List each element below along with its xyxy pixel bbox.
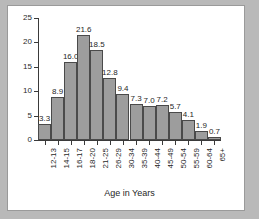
bar-value-label: 16.0 xyxy=(63,52,79,61)
y-tick-label: 0 xyxy=(28,135,32,144)
bar-group: 7.2 xyxy=(156,18,169,140)
bar-group: 9.4 xyxy=(116,18,129,140)
bar-value-label: 7.3 xyxy=(130,94,141,103)
x-tick-mark xyxy=(214,141,215,145)
bars-layer: 3.312-138.914-1516.016-1721.618-2018.521… xyxy=(38,18,221,140)
bar-value-label: 1.9 xyxy=(196,121,207,130)
x-tick-mark xyxy=(45,141,46,145)
x-category-label: 16-17 xyxy=(75,148,84,168)
bar xyxy=(208,137,221,140)
bar-value-label: 3.3 xyxy=(39,114,50,123)
bar-group: 4.1 xyxy=(182,18,195,140)
bar xyxy=(77,35,90,140)
chart-panel: 0510152025 3.312-138.914-1516.016-1721.6… xyxy=(7,5,245,211)
bar-value-label: 12.8 xyxy=(102,68,118,77)
bar-group: 5.7 xyxy=(169,18,182,140)
bar-value-label: 7.2 xyxy=(157,95,168,104)
x-category-label: 40-44 xyxy=(153,148,162,168)
x-tick-mark xyxy=(71,141,72,145)
bar-group: 16.0 xyxy=(64,18,77,140)
y-tick-label: 20 xyxy=(23,37,32,46)
bar xyxy=(169,112,182,140)
bar xyxy=(64,62,77,140)
bar-value-label: 7.0 xyxy=(144,96,155,105)
bar xyxy=(38,124,51,140)
bar-group: 0.7 xyxy=(208,18,221,140)
x-category-label: 55-59 xyxy=(192,148,201,168)
x-category-label: 14-15 xyxy=(62,148,71,168)
figure-root: 0510152025 3.312-138.914-1516.016-1721.6… xyxy=(0,0,259,219)
x-tick-mark xyxy=(188,141,189,145)
x-category-label: 18-20 xyxy=(88,148,97,168)
bar xyxy=(143,106,156,140)
x-axis-title: Age in Years xyxy=(38,188,221,198)
x-tick-mark xyxy=(175,141,176,145)
bar xyxy=(103,78,116,140)
x-category-label: 26-29 xyxy=(114,148,123,168)
bar-value-label: 5.7 xyxy=(170,102,181,111)
bar-value-label: 9.4 xyxy=(117,84,128,93)
bar-group: 1.9 xyxy=(195,18,208,140)
x-category-label: 30-34 xyxy=(127,148,136,168)
bar-value-label: 18.5 xyxy=(89,40,105,49)
x-category-label: 50-54 xyxy=(179,148,188,168)
bar xyxy=(130,104,143,140)
x-category-label: 12-13 xyxy=(49,148,58,168)
bar xyxy=(195,131,208,140)
y-tick-label: 25 xyxy=(23,13,32,22)
x-tick-mark xyxy=(136,141,137,145)
x-category-label: 45-49 xyxy=(166,148,175,168)
bar xyxy=(51,97,64,140)
bar xyxy=(182,120,195,140)
x-tick-mark xyxy=(110,141,111,145)
bar-group: 21.6 xyxy=(77,18,90,140)
y-tick-label: 15 xyxy=(23,62,32,71)
y-tick-label: 10 xyxy=(23,86,32,95)
plot-area: 0510152025 3.312-138.914-1516.016-1721.6… xyxy=(38,18,220,140)
x-category-label: 35-39 xyxy=(140,148,149,168)
bar-group: 3.3 xyxy=(38,18,51,140)
bar xyxy=(116,94,129,140)
x-category-label: 60-64 xyxy=(205,148,214,168)
bar-value-label: 0.7 xyxy=(209,127,220,136)
x-tick-mark xyxy=(162,141,163,145)
bar-value-label: 21.6 xyxy=(76,25,92,34)
x-tick-mark xyxy=(97,141,98,145)
bar-group: 8.9 xyxy=(51,18,64,140)
x-tick-mark xyxy=(201,141,202,145)
bar-group: 18.5 xyxy=(90,18,103,140)
x-axis-line xyxy=(38,140,221,141)
x-category-label: 65+ xyxy=(218,148,227,162)
x-tick-mark xyxy=(123,141,124,145)
bar-value-label: 4.1 xyxy=(183,110,194,119)
y-tick-label: 5 xyxy=(28,111,32,120)
bar-group: 7.0 xyxy=(143,18,156,140)
bar-value-label: 8.9 xyxy=(52,87,63,96)
bar-group: 7.3 xyxy=(130,18,143,140)
x-tick-mark xyxy=(149,141,150,145)
bar xyxy=(156,105,169,140)
x-tick-mark xyxy=(84,141,85,145)
bar-group: 12.8 xyxy=(103,18,116,140)
x-category-label: 21-25 xyxy=(101,148,110,168)
y-tick-mark xyxy=(34,140,39,141)
y-tick-0: 0 xyxy=(38,140,39,141)
bar xyxy=(90,50,103,140)
x-tick-mark xyxy=(58,141,59,145)
